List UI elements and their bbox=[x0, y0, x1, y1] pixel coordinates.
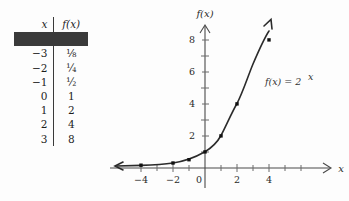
function-label-exponent: x bbox=[308, 71, 314, 82]
x-tick-label: 0 bbox=[196, 174, 202, 185]
data-point bbox=[219, 134, 222, 137]
graph-panel: −4 −2 0 2 4 2 4 6 8 f(x) x f(x) = 2 x bbox=[108, 0, 349, 201]
y-tick-label: 6 bbox=[189, 66, 195, 77]
table-header-row: x f(x) bbox=[14, 17, 88, 32]
data-point bbox=[235, 102, 238, 105]
header-rule-left bbox=[14, 32, 54, 46]
function-label-base: f(x) = 2 bbox=[264, 76, 301, 87]
cell-fx: ½ bbox=[54, 75, 88, 89]
data-point bbox=[171, 161, 174, 164]
cell-x: −3 bbox=[14, 46, 54, 60]
data-point bbox=[139, 164, 142, 167]
figure-root: x f(x) −3⅛−2¼−1½01122438 bbox=[0, 0, 349, 201]
y-tick-labels: 2 4 6 8 bbox=[189, 34, 195, 141]
cell-x: −1 bbox=[14, 75, 54, 89]
y-tick-label: 8 bbox=[189, 34, 195, 45]
table-body: −3⅛−2¼−1½01122438 bbox=[14, 46, 88, 145]
data-point bbox=[267, 38, 270, 41]
cell-fx: ⅛ bbox=[54, 46, 88, 60]
x-tick-labels: −4 −2 0 2 4 bbox=[134, 174, 272, 185]
cell-fx: ¼ bbox=[54, 61, 88, 75]
cell-fx: 2 bbox=[54, 103, 88, 117]
cell-fx: 8 bbox=[54, 132, 88, 146]
x-tick-label: −4 bbox=[134, 174, 148, 185]
table-row: 24 bbox=[14, 117, 88, 131]
x-axis-title: x bbox=[338, 163, 344, 174]
curve-right-arrow bbox=[264, 20, 272, 30]
y-tick-label: 2 bbox=[189, 130, 195, 141]
table: x f(x) −3⅛−2¼−1½01122438 bbox=[14, 17, 88, 146]
header-rule-right bbox=[54, 32, 88, 46]
cell-x: 2 bbox=[14, 117, 54, 131]
cell-fx: 4 bbox=[54, 117, 88, 131]
data-point bbox=[187, 158, 190, 161]
table-head: x f(x) bbox=[14, 17, 88, 46]
column-header-x: x bbox=[14, 17, 54, 32]
table-row: −1½ bbox=[14, 75, 88, 89]
table-row: 12 bbox=[14, 103, 88, 117]
cell-x: 1 bbox=[14, 103, 54, 117]
y-axis bbox=[200, 25, 210, 188]
x-tick-label: −2 bbox=[166, 174, 180, 185]
cell-x: 0 bbox=[14, 89, 54, 103]
table-row: −2¼ bbox=[14, 61, 88, 75]
cell-fx: 1 bbox=[54, 89, 88, 103]
function-annotation: f(x) = 2 x bbox=[264, 71, 314, 87]
header-rule-row bbox=[14, 32, 88, 46]
cell-x: −2 bbox=[14, 61, 54, 75]
table-row: 38 bbox=[14, 132, 88, 146]
x-tick-label: 2 bbox=[234, 174, 240, 185]
y-tick-label: 4 bbox=[189, 98, 195, 109]
cell-x: 3 bbox=[14, 132, 54, 146]
table-row: 01 bbox=[14, 89, 88, 103]
table-row: −3⅛ bbox=[14, 46, 88, 60]
value-table: x f(x) −3⅛−2¼−1½01122438 bbox=[14, 17, 88, 146]
data-point bbox=[203, 150, 206, 153]
x-tick-label: 4 bbox=[266, 174, 272, 185]
y-axis-title: f(x) bbox=[195, 8, 213, 19]
column-header-fx: f(x) bbox=[54, 17, 88, 32]
